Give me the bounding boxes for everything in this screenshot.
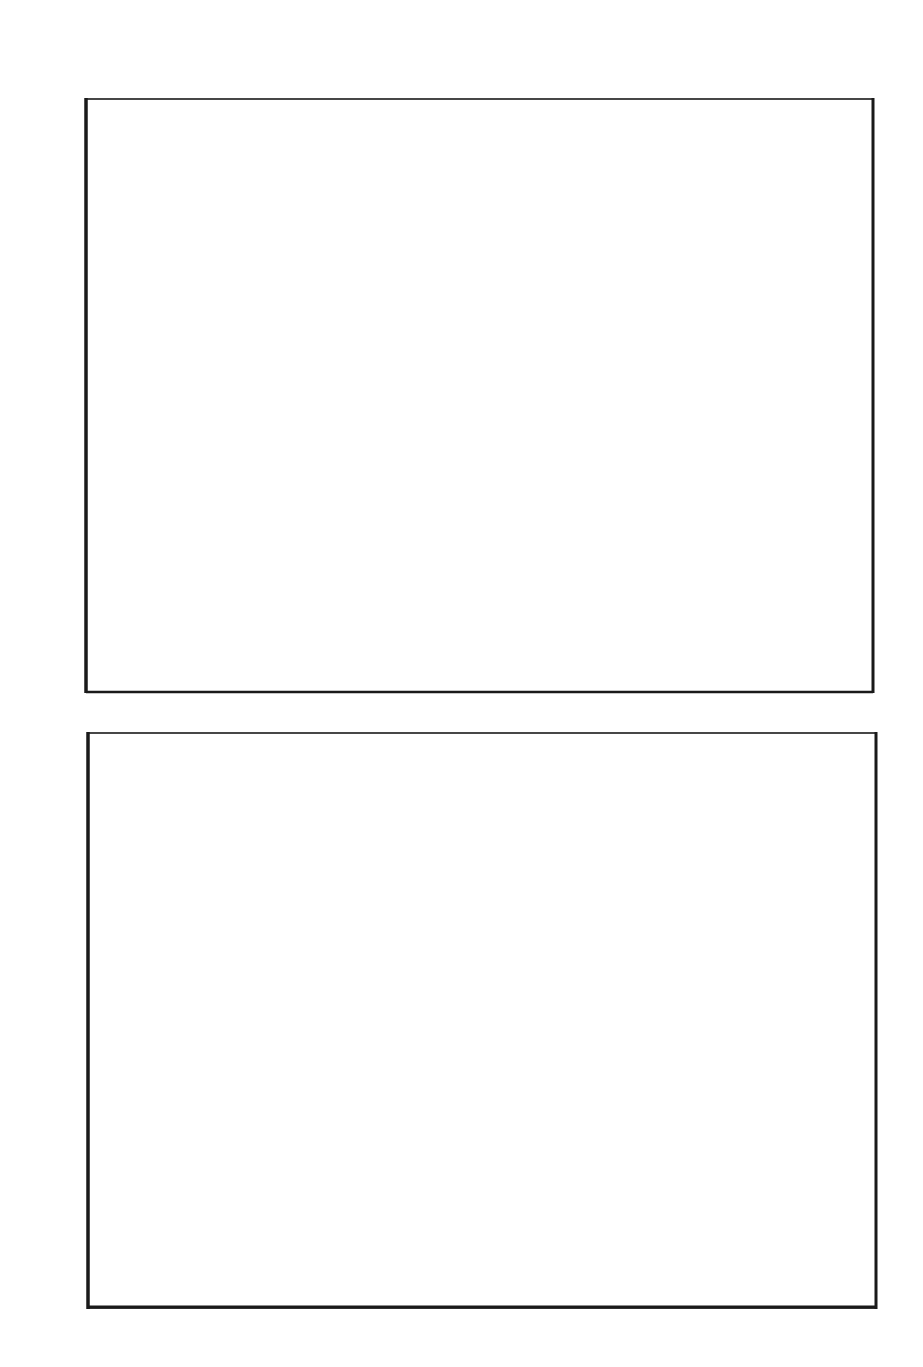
top-frame [86,99,873,692]
top-panel [86,98,873,693]
bottom-panel [88,732,876,1309]
bottom-title-backdrop [137,1198,697,1260]
pollution-cost-chart [0,0,923,1367]
